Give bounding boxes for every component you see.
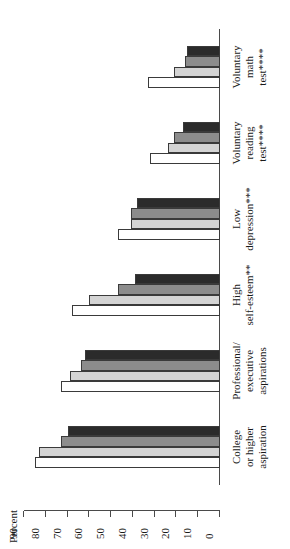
bar-group: Voluntaryreadingtest**** [24, 105, 220, 181]
axis-tick-mark [67, 511, 68, 517]
category-axis-label-line: test**** [256, 45, 269, 88]
value-axis-spine [24, 510, 220, 511]
bar [185, 57, 220, 68]
bar [174, 133, 220, 144]
category-axis-label-line: aspirations [256, 342, 269, 399]
bar [131, 219, 220, 230]
category-axis-label: Lowdepression*** [230, 187, 256, 251]
bar [61, 382, 220, 393]
bar [183, 122, 220, 133]
axis-tick-label: 10 [182, 528, 193, 539]
bar [148, 78, 220, 89]
axis-tick-mark [23, 511, 24, 517]
chart-figure: Percent 9080706050403020100 Collegeor hi… [0, 0, 290, 549]
category-axis-label-line: Professional/ [230, 342, 243, 399]
axis-tick-mark [154, 511, 155, 517]
bar-group: Voluntarymathtest**** [24, 29, 220, 105]
bar [72, 306, 220, 317]
bar [187, 46, 220, 57]
axis-tick-mark [175, 511, 176, 517]
bar [174, 67, 220, 78]
bar [137, 198, 220, 209]
bar [70, 371, 220, 382]
category-axis-label-line: self-esteem** [243, 264, 256, 325]
category-axis-label-line: math [243, 45, 256, 88]
axis-tick-label: 80 [29, 528, 40, 539]
chart-canvas: Percent 9080706050403020100 Collegeor hi… [0, 0, 290, 549]
bar [61, 437, 220, 448]
category-axis-label: Voluntarymathtest**** [230, 45, 269, 88]
axis-tick-label: 90 [8, 528, 19, 539]
axis-tick-label: 40 [116, 528, 127, 539]
category-axis-label-line: or higher [243, 425, 256, 468]
category-axis-label-line: reading [243, 121, 256, 164]
axis-tick-mark [132, 511, 133, 517]
bar [68, 426, 220, 437]
category-axis-label-line: High [230, 264, 243, 325]
bar [85, 350, 220, 361]
bar-group: Lowdepression*** [24, 181, 220, 257]
category-axis-label-line: Voluntary [230, 121, 243, 164]
axis-tick-mark [88, 511, 89, 517]
category-axis-label: Collegeor higheraspiration [230, 425, 269, 468]
category-axis-label-line: College [230, 425, 243, 468]
bar-group: Collegeor higheraspiration [24, 409, 220, 485]
axis-tick-label: 60 [73, 528, 84, 539]
bar [81, 361, 220, 372]
axis-tick-mark [219, 511, 220, 517]
category-axis-label-line: test**** [256, 121, 269, 164]
category-axis-label: Professional/executiveaspirations [230, 342, 269, 399]
plot-area: Percent 9080706050403020100 Collegeor hi… [24, 29, 220, 485]
axis-tick-label: 0 [204, 534, 215, 540]
axis-tick-mark [110, 511, 111, 517]
bar [35, 458, 220, 469]
bar [131, 209, 220, 220]
bar-group: Professional/executiveaspirations [24, 333, 220, 409]
axis-tick-label: 30 [138, 528, 149, 539]
category-axis-label-line: Low [230, 187, 243, 251]
category-axis-label-line: aspiration [256, 425, 269, 468]
bar [118, 285, 220, 296]
axis-tick-label: 70 [51, 528, 62, 539]
category-axis-label-line: Voluntary [230, 45, 243, 88]
category-axis-label-line: executive [243, 342, 256, 399]
bar [89, 295, 220, 306]
bar [135, 274, 220, 285]
bar-group: Highself-esteem** [24, 257, 220, 333]
bar [118, 230, 220, 241]
axis-tick-label: 20 [160, 528, 171, 539]
bar [168, 143, 220, 154]
axis-tick-label: 50 [95, 528, 106, 539]
bar [39, 447, 220, 458]
axis-tick-mark [45, 511, 46, 517]
category-axis-label-line: depression*** [243, 187, 256, 251]
bar [150, 154, 220, 165]
category-axis-label: Voluntaryreadingtest**** [230, 121, 269, 164]
category-axis-label: Highself-esteem** [230, 264, 256, 325]
axis-tick-mark [197, 511, 198, 517]
